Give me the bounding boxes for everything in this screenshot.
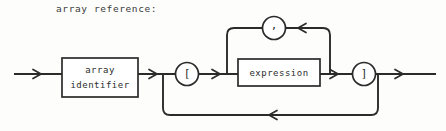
rail-box-to-open-bracket xyxy=(138,70,176,79)
close-bracket-label: ] xyxy=(361,67,368,80)
entry-rail xyxy=(14,70,62,79)
railroad-diagram: array identifier [ xyxy=(0,0,446,131)
array-identifier-label-line2: identifier xyxy=(70,80,129,90)
rail-expression-to-close-bracket xyxy=(320,70,353,79)
rail-open-bracket-to-expression xyxy=(199,70,239,79)
open-bracket-node: [ xyxy=(176,63,199,86)
array-identifier-node: array identifier xyxy=(62,58,138,97)
array-identifier-label-line1: array xyxy=(85,65,115,75)
expression-label: expression xyxy=(249,68,308,78)
syntax-diagram-page: array reference: array identifier xyxy=(0,0,446,131)
exit-rail xyxy=(376,70,437,79)
open-bracket-label: [ xyxy=(184,67,191,80)
close-bracket-node: ] xyxy=(353,63,376,86)
expression-node: expression xyxy=(238,59,320,86)
comma-node: , xyxy=(263,17,286,40)
comma-label: , xyxy=(271,19,278,32)
